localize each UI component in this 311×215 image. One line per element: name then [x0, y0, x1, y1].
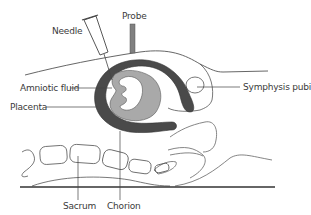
placenta-label: Placenta — [10, 102, 47, 112]
bladder-outline — [170, 122, 217, 152]
amniotic-fluid-label: Amniotic fluid — [20, 83, 79, 93]
probe-icon — [130, 24, 135, 53]
spine-vertebrae — [22, 144, 170, 177]
needle-icon — [82, 15, 112, 80]
perineum-outline — [175, 155, 272, 186]
pelvic-floor-line — [170, 153, 203, 156]
sacrum-label: Sacrum — [63, 201, 96, 211]
vagina-outline — [168, 148, 205, 178]
chorion-label: Chorion — [107, 201, 141, 211]
needle-label: Needle — [52, 26, 82, 36]
back-outline — [32, 177, 170, 186]
amniocentesis-diagram: Needle Probe Amniotic fluid Placenta Sym… — [0, 0, 311, 215]
symphysis-pubis-shape — [186, 77, 204, 93]
probe-label: Probe — [122, 11, 147, 21]
symphysis-pubis-label: Symphysis pubis — [243, 82, 311, 92]
